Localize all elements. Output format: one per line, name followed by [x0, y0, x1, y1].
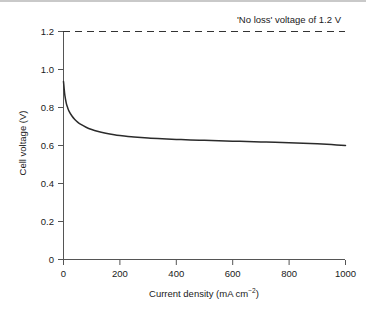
x-axis-ticks [64, 260, 346, 265]
y-tick-label-0.6: 0.6 [41, 140, 54, 151]
x-tick-label-800: 800 [281, 268, 297, 279]
no-loss-voltage-annotation: 'No loss' voltage of 1.2 V [237, 14, 342, 25]
x-axis-tick-labels: 0 200 400 600 800 1000 [61, 268, 356, 279]
figure-container: 1.2 1.0 0.8 0.6 0.4 0.2 0 0 200 400 600 … [0, 0, 366, 312]
y-axis-ticks [58, 32, 63, 260]
y-tick-label-0.2: 0.2 [41, 216, 54, 227]
y-tick-label-0.4: 0.4 [41, 178, 54, 189]
y-axis-tick-labels: 1.2 1.0 0.8 0.6 0.4 0.2 0 [41, 26, 54, 265]
x-tick-label-600: 600 [225, 268, 241, 279]
y-tick-label-0: 0 [49, 254, 54, 265]
y-tick-label-1.2: 1.2 [41, 26, 54, 37]
x-axis-title: Current density (mA cm−2) [149, 287, 259, 299]
x-tick-label-400: 400 [168, 268, 184, 279]
y-tick-label-1.0: 1.0 [41, 64, 54, 75]
y-tick-label-0.8: 0.8 [41, 102, 54, 113]
x-axis-title-base: Current density (mA cm [149, 288, 248, 299]
x-tick-label-0: 0 [61, 268, 66, 279]
x-tick-label-1000: 1000 [335, 268, 356, 279]
y-axis-title: Cell voltage (V) [17, 111, 28, 176]
x-axis-title-tail: ) [256, 288, 259, 299]
x-tick-label-200: 200 [112, 268, 128, 279]
polarization-curve-chart: 1.2 1.0 0.8 0.6 0.4 0.2 0 0 200 400 600 … [0, 0, 366, 312]
